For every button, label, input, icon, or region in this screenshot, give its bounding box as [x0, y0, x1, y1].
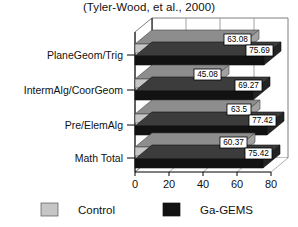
category-label-intermalg-coorgeom: IntermAlg/CoorGeom: [24, 84, 123, 96]
data-label-control-intermalg-coorgeom: 45.08: [194, 69, 221, 80]
bar-front-face: [135, 56, 264, 65]
x-tick-labels: 0 20 40 60 80: [132, 178, 277, 190]
chart-container: (Tyler-Wood, et al., 2000): [0, 0, 298, 227]
x-tick-4: 80: [265, 178, 277, 190]
legend-entry-control[interactable]: Control: [41, 203, 115, 216]
svg-text:63.08: 63.08: [227, 35, 248, 44]
bar-group-planegeom-trig: 63.08 75.69: [135, 30, 281, 65]
category-labels: PlaneGeom/Trig IntermAlg/CoorGeom Pre/El…: [24, 49, 123, 164]
bar-front-face: [135, 159, 263, 168]
x-tick-1: 20: [163, 178, 175, 190]
svg-text:45.08: 45.08: [197, 70, 218, 79]
category-label-planegeom-trig: PlaneGeom/Trig: [47, 49, 123, 61]
data-label-gagems-intermalg-coorgeom: 69.27: [235, 80, 262, 91]
legend-label-gagems: Ga-GEMS: [200, 204, 253, 216]
svg-text:75.69: 75.69: [249, 46, 270, 55]
data-label-gagems-planegeom-trig: 75.69: [246, 45, 273, 56]
y-axis-ticks: [127, 55, 135, 158]
x-tick-2: 40: [197, 178, 209, 190]
legend-swatch-gagems: [163, 203, 180, 216]
legend-swatch-control: [41, 203, 58, 216]
data-label-gagems-math-total: 75.42: [245, 148, 272, 159]
legend-label-control: Control: [78, 204, 115, 216]
svg-text:63.5: 63.5: [231, 105, 247, 114]
svg-text:75.42: 75.42: [248, 149, 269, 158]
category-label-math-total: Math Total: [75, 152, 123, 164]
x-tick-0: 0: [132, 178, 138, 190]
svg-text:77.42: 77.42: [252, 116, 273, 125]
chart-plot: 0 20 40 60 80 PlaneGeom/Trig IntermAlg/C…: [0, 0, 298, 227]
bar-front-face: [135, 91, 253, 100]
svg-text:69.27: 69.27: [238, 81, 259, 90]
data-label-control-pre-elemalg: 63.5: [227, 104, 251, 115]
data-label-control-math-total: 60.37: [220, 137, 247, 148]
category-label-pre-elemalg: Pre/ElemAlg: [65, 119, 124, 131]
x-axis-ticks: [135, 172, 271, 176]
data-label-control-planegeom-trig: 63.08: [224, 34, 251, 45]
svg-text:60.37: 60.37: [223, 138, 244, 147]
x-tick-3: 60: [231, 178, 243, 190]
legend-entry-gagems[interactable]: Ga-GEMS: [163, 203, 253, 216]
data-label-gagems-pre-elemalg: 77.42: [249, 115, 276, 126]
chart-legend: Control Ga-GEMS: [41, 203, 253, 216]
